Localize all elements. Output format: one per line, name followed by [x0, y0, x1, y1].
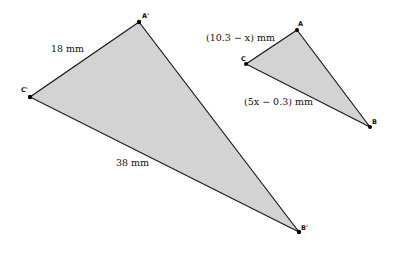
vertex-label-a: A	[298, 20, 303, 28]
side-label-c-b: (5x − 0.3) mm	[244, 96, 313, 107]
vertex-point-a	[295, 28, 299, 32]
vertex-label-a-prime: A'	[142, 12, 149, 20]
side-label-c-prime-b-prime: 38 mm	[116, 157, 149, 168]
vertex-label-b-prime: B'	[301, 224, 308, 232]
small-triangle	[246, 30, 370, 127]
vertex-point-a-prime	[137, 20, 141, 24]
vertex-label-c-prime: C'	[21, 86, 28, 94]
similar-triangles-diagram: A' C' B' A C B 18 mm 38 mm (10.3 − x) mm…	[0, 0, 393, 255]
triangles-canvas	[0, 0, 393, 255]
vertex-point-c-prime	[28, 95, 32, 99]
vertex-label-b: B	[372, 118, 377, 126]
vertex-label-c: C	[241, 55, 246, 63]
side-label-a-prime-c-prime: 18 mm	[51, 43, 84, 54]
side-label-a-c: (10.3 − x) mm	[206, 32, 275, 43]
